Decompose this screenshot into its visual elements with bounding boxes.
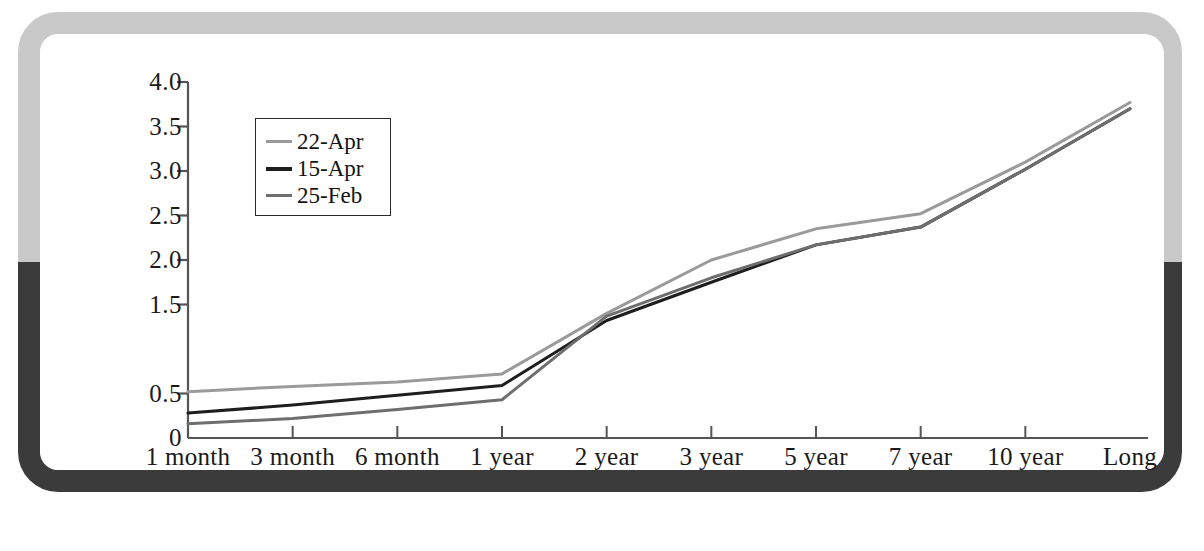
x-tick-label: Long	[1103, 444, 1157, 469]
x-tick-label: 7 year	[889, 444, 953, 469]
x-tick-label: 2 year	[575, 444, 639, 469]
legend-label: 15-Apr	[297, 157, 363, 180]
y-tick-label: 3.5	[128, 114, 182, 139]
chart-card: 4.03.53.02.52.01.50.50 1 month3 month6 m…	[40, 34, 1164, 470]
y-axis-tick-labels: 4.03.53.02.52.01.50.50	[124, 34, 182, 470]
x-tick-label: 1 year	[470, 444, 534, 469]
x-tick-label: 5 year	[784, 444, 848, 469]
legend-line-swatch	[266, 140, 292, 143]
legend-label: 22-Apr	[297, 130, 363, 153]
x-tick-label: 6 month	[355, 444, 440, 469]
x-tick-label: 1 month	[146, 444, 231, 469]
x-tick-label: 10 year	[987, 444, 1063, 469]
line-chart-svg	[40, 34, 1164, 470]
legend-line-swatch	[266, 194, 292, 197]
legend-item-22-apr: 22-Apr	[266, 128, 390, 155]
legend-item-15-apr: 15-Apr	[266, 155, 390, 182]
legend-item-25-feb: 25-Feb	[266, 182, 390, 209]
legend-label: 25-Feb	[297, 184, 362, 207]
x-tick-label: 3 month	[250, 444, 335, 469]
y-tick-label: 2.0	[128, 247, 182, 272]
legend-line-swatch	[266, 167, 292, 171]
y-tick-label: 0.5	[128, 381, 182, 406]
plot-area: 4.03.53.02.52.01.50.50 1 month3 month6 m…	[40, 34, 1164, 470]
y-tick-label: 4.0	[128, 69, 182, 94]
y-tick-label: 1.5	[128, 292, 182, 317]
x-tick-label: 3 year	[680, 444, 744, 469]
chart-legend: 22-Apr15-Apr25-Feb	[255, 118, 391, 216]
x-axis-tick-labels: 1 month3 month6 month1 year2 year3 year5…	[40, 438, 1164, 478]
y-tick-label: 3.0	[128, 158, 182, 183]
y-tick-label: 2.5	[128, 203, 182, 228]
